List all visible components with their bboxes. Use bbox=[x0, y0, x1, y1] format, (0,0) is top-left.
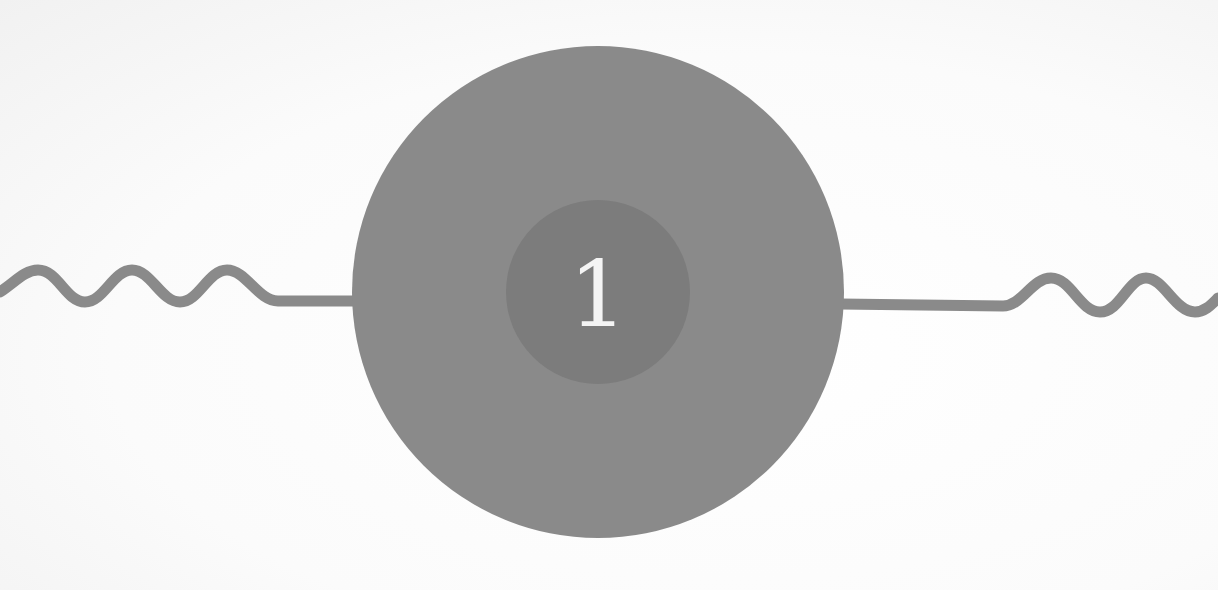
inner-circle: 1 bbox=[506, 200, 690, 384]
step-diagram: 1 bbox=[0, 0, 1218, 590]
right-wavy-connector bbox=[840, 278, 1218, 312]
step-number: 1 bbox=[569, 249, 628, 341]
left-wavy-connector bbox=[0, 270, 360, 302]
